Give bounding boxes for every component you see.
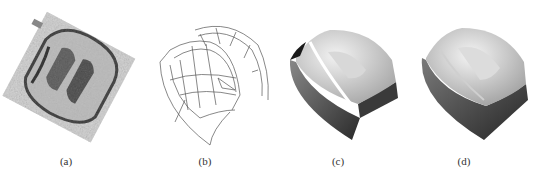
panel-d: (d) [400,0,536,181]
panel-label-c: (c) [318,155,358,167]
panel-label-b: (b) [185,155,225,167]
panel-c: (c) [270,0,410,181]
wireframe-model [140,0,270,150]
panel-label-a: (a) [46,155,86,167]
shaded-solid-model [400,0,536,150]
panel-b: (b) [140,0,270,181]
panel-a: (a) [0,0,140,181]
scan-image [0,0,140,150]
shaded-surface-model [270,0,410,150]
panel-label-d: (d) [444,155,484,167]
